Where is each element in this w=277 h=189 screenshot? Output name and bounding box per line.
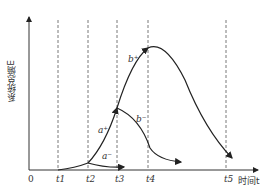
tick-t2: t2 — [86, 175, 95, 184]
tick-t4: t4 — [146, 175, 155, 184]
entropy-time-diagram: 系统总熵E 时间t 0 t1 t2 t3 t4 t5 a⁻ a⁺ b⁻ b⁺ — [0, 0, 277, 189]
label-a-plus: a⁺ — [98, 126, 108, 135]
label-a-minus: a⁻ — [102, 152, 112, 161]
curve-a-minus — [88, 163, 124, 167]
tick-t3: t3 — [115, 175, 124, 184]
x-axis-label: 时间t — [238, 174, 260, 187]
tick-t5: t5 — [224, 175, 233, 184]
curve-b-minus — [117, 108, 181, 162]
label-b-plus: b⁺ — [128, 55, 139, 64]
dashed-guides — [58, 20, 226, 170]
label-b-minus: b⁻ — [136, 115, 147, 124]
tick-t1: t1 — [56, 175, 65, 184]
curve-base — [58, 163, 88, 170]
origin-label: 0 — [28, 175, 34, 184]
y-axis-label: 系统总熵E — [4, 60, 18, 102]
diagram-canvas — [0, 0, 277, 189]
curve-b-plus-decline — [148, 47, 232, 158]
axes — [29, 17, 258, 170]
